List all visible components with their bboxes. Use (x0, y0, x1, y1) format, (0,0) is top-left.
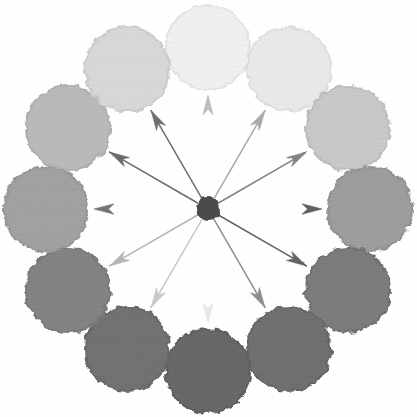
radial-wheel-figure: Radial Grayscale Value Wheel Twelve hand… (0, 0, 417, 417)
circle-2-oclock (306, 86, 390, 170)
circle-9-oclock (4, 167, 88, 251)
circle-5-oclock (247, 307, 331, 391)
circle-11-oclock (85, 27, 169, 111)
center-hub (197, 198, 219, 220)
circle-12-oclock (166, 5, 250, 89)
circle-3-oclock (328, 167, 412, 251)
radial-wheel-canvas (0, 0, 417, 417)
circle-6-oclock (166, 329, 250, 413)
circle-8-oclock (26, 248, 110, 332)
hub-dot (197, 198, 219, 220)
